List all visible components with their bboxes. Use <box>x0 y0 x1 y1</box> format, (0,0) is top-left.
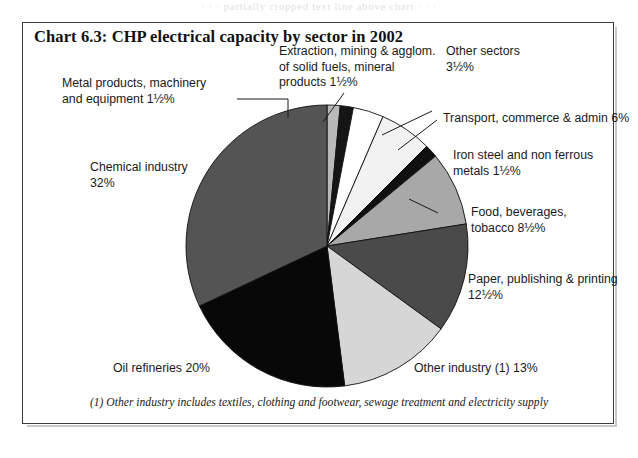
label-chemical-industry: Chemical industry 32% <box>90 160 188 191</box>
label-metal-products: Metal products, machinery and equipment … <box>62 76 206 107</box>
label-oil-refineries: Oil refineries 20% <box>113 361 210 377</box>
label-food-beverages: Food, beverages, tobacco 8½% <box>471 205 567 236</box>
label-iron-steel: Iron steel and non ferrous metals 1½% <box>453 148 593 179</box>
label-transport-commerce: Transport, commerce & admin 6% <box>443 111 629 127</box>
pie-slices <box>186 105 468 387</box>
label-extraction-mining: Extraction, mining & agglom. of solid fu… <box>279 44 436 91</box>
chart-footnote: (1) Other industry includes textiles, cl… <box>0 396 638 409</box>
label-other-sectors: Other sectors 3½% <box>446 44 520 75</box>
label-paper-publishing: Paper, publishing & printing 12½% <box>468 272 618 303</box>
label-other-industry: Other industry (1) 13% <box>414 361 538 377</box>
